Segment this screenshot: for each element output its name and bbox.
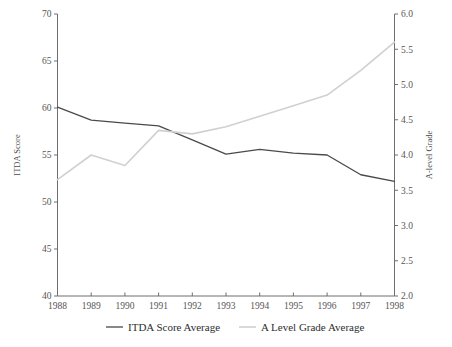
legend-label: ITDA Score Average [128, 321, 220, 333]
x-axis-tick-label: 1996 [318, 301, 337, 311]
series-line-itda-score-average [58, 107, 395, 181]
left-axis-tick-label: 60 [42, 103, 52, 113]
x-axis-tick-label: 1992 [183, 301, 202, 311]
chart-canvas: 40455055606570ITDA Score2.02.53.03.54.04… [0, 0, 452, 347]
right-axis-tick-label: 5.5 [401, 45, 413, 55]
x-axis-tick-label: 1997 [351, 301, 370, 311]
left-axis-tick-label: 70 [42, 9, 52, 19]
x-axis-tick-label: 1990 [115, 301, 134, 311]
x-axis-tick-label: 1993 [217, 301, 236, 311]
right-axis-title: A-level Grade [424, 131, 434, 180]
x-axis-tick-label: 1991 [149, 301, 168, 311]
left-axis-tick-label: 65 [42, 56, 52, 66]
x-axis-tick-label: 1994 [250, 301, 269, 311]
left-axis-tick-label: 50 [42, 197, 52, 207]
x-axis-tick-label: 1995 [284, 301, 303, 311]
right-axis-tick-label: 3.0 [401, 221, 413, 231]
line-chart: 40455055606570ITDA Score2.02.53.03.54.04… [0, 0, 452, 347]
right-axis-tick-label: 6.0 [401, 9, 413, 19]
right-axis-tick-label: 2.5 [401, 256, 413, 266]
right-axis-tick-label: 4.5 [401, 115, 413, 125]
legend-label: A Level Grade Average [261, 321, 364, 333]
right-axis-tick-label: 3.5 [401, 186, 413, 196]
series-line-a-level-grade-average [58, 42, 395, 179]
left-axis-tick-label: 45 [42, 244, 52, 254]
right-axis-tick-label: 4.0 [401, 150, 413, 160]
x-axis-tick-label: 1989 [82, 301, 101, 311]
left-axis-tick-label: 55 [42, 150, 52, 160]
x-axis-tick-label: 1998 [385, 301, 404, 311]
left-axis-title: ITDA Score [12, 134, 22, 176]
right-axis-tick-label: 5.0 [401, 80, 413, 90]
x-axis-tick-label: 1988 [48, 301, 67, 311]
